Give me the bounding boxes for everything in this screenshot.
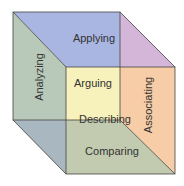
- cube-diagram: Applying Arguing Describing Comparing An…: [0, 0, 184, 186]
- label-describing: Describing: [79, 113, 131, 125]
- label-arguing: Arguing: [74, 77, 112, 89]
- label-associating: Associating: [142, 77, 154, 133]
- label-analyzing: Analyzing: [33, 53, 45, 101]
- label-applying: Applying: [73, 32, 115, 44]
- label-comparing: Comparing: [85, 145, 139, 157]
